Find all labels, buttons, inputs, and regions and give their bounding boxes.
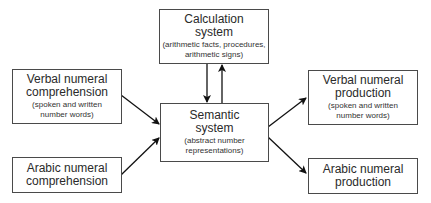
node-subtitle: (arithmetic facts, procedures,arithmetic… — [162, 40, 265, 60]
node-arabic-numeral-production: Arabic numeral production — [308, 158, 418, 194]
node-calculation-system: Calculation system (arithmetic facts, pr… — [159, 9, 269, 64]
node-title: comprehension — [26, 175, 108, 188]
arrow-semantic-to-verbal-production — [268, 98, 306, 127]
node-verbal-numeral-production: Verbal numeral production (spoken and wr… — [308, 70, 418, 125]
arrow-verbal-comprehension-to-semantic — [121, 95, 159, 124]
node-subtitle: (spoken and writtennumber words) — [32, 100, 102, 120]
node-title: system — [195, 122, 233, 135]
arrow-arabic-comprehension-to-semantic — [121, 138, 159, 175]
node-title: production — [335, 176, 391, 189]
node-subtitle: (abstract numberrepresentations) — [184, 136, 244, 156]
node-title: comprehension — [26, 86, 108, 99]
node-semantic-system: Semantic system (abstract numberrepresen… — [160, 103, 269, 162]
node-subtitle: (spoken and writtennumber words) — [328, 101, 398, 121]
node-title: production — [335, 87, 391, 100]
node-arabic-numeral-comprehension: Arabic numeral comprehension — [12, 157, 122, 193]
node-verbal-numeral-comprehension: Verbal numeral comprehension (spoken and… — [12, 69, 122, 124]
arrow-semantic-to-arabic-production — [268, 137, 306, 173]
node-title: system — [195, 26, 233, 39]
